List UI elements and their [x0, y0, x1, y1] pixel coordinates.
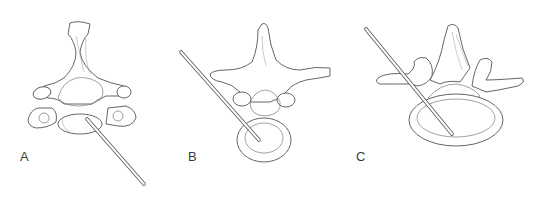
vertebra-b-drawing [210, 24, 330, 163]
vertebra-needle-figure: A B C [0, 0, 536, 200]
vertebra-c-drawing [376, 24, 523, 146]
needle-a [87, 119, 144, 184]
panel-label-c: C [356, 150, 365, 163]
panel-label-a: A [20, 150, 29, 163]
illustration-canvas [0, 0, 536, 200]
vertebra-a-drawing [28, 22, 136, 134]
panel-label-b: B [188, 150, 197, 163]
